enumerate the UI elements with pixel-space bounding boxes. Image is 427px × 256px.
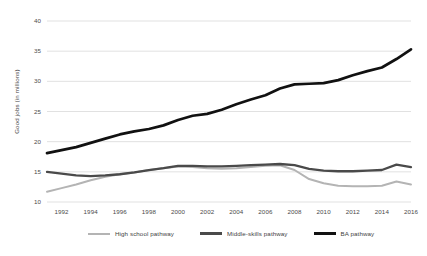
- plot-area: [0, 0, 427, 256]
- x-tick-label: 1998: [134, 208, 164, 215]
- legend-label: High school pathway: [115, 230, 174, 237]
- y-tick-label: 20: [19, 138, 41, 145]
- chart-legend: High school pathwayMiddle-skills pathway…: [88, 230, 374, 237]
- legend-entry[interactable]: Middle-skills pathway: [200, 230, 288, 237]
- legend-entry[interactable]: High school pathway: [88, 230, 174, 237]
- legend-swatch-icon: [314, 232, 336, 235]
- y-tick-label: 35: [19, 47, 41, 54]
- x-tick-label: 1996: [105, 208, 135, 215]
- series-lines: [47, 49, 411, 191]
- y-tick-label: 40: [19, 17, 41, 24]
- series-line-1: [47, 164, 411, 176]
- x-tick-label: 2002: [192, 208, 222, 215]
- legend-entry[interactable]: BA pathway: [314, 230, 375, 237]
- x-tick-label: 2000: [163, 208, 193, 215]
- x-tick-label: 1992: [47, 208, 77, 215]
- x-tick-label: 2014: [367, 208, 397, 215]
- line-chart: Good jobs (in millions) 10152025303540 1…: [0, 0, 427, 256]
- legend-swatch-icon: [200, 232, 222, 234]
- x-tick-label: 2004: [221, 208, 251, 215]
- x-tick-label: 2012: [338, 208, 368, 215]
- x-tick-label: 2010: [309, 208, 339, 215]
- x-tick-label: 2006: [250, 208, 280, 215]
- y-tick-label: 25: [19, 108, 41, 115]
- x-tick-label: 2008: [280, 208, 310, 215]
- x-tick-label: 2016: [396, 208, 426, 215]
- x-tick-label: 1994: [76, 208, 106, 215]
- y-tick-label: 10: [19, 198, 41, 205]
- y-tick-label: 15: [19, 168, 41, 175]
- series-line-0: [47, 165, 411, 192]
- series-line-2: [47, 49, 411, 153]
- legend-label: BA pathway: [341, 230, 375, 237]
- legend-label: Middle-skills pathway: [227, 230, 288, 237]
- legend-swatch-icon: [88, 233, 110, 235]
- y-tick-label: 30: [19, 77, 41, 84]
